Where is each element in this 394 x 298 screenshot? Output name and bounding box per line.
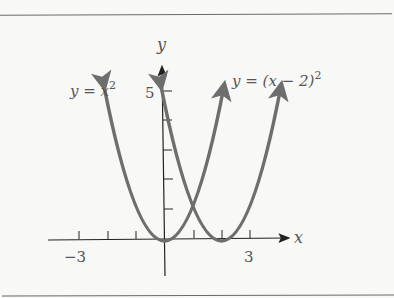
- tick-label-3: 3: [244, 248, 254, 266]
- x-axis-label: x: [294, 228, 303, 247]
- x-axis: [48, 230, 288, 240]
- curve-label-x-minus-2-squared: y = (x − 2)2: [231, 69, 321, 90]
- svg-text:y = x2: y = x2: [69, 79, 116, 100]
- y-axis-label: y: [156, 35, 167, 54]
- svg-text:y = (x − 2)2: y = (x − 2)2: [231, 69, 321, 90]
- curve-label-x-squared: y = x2: [69, 79, 116, 100]
- parabola-chart: y x −3 3 5 y = x2 y = (x − 2)2: [0, 0, 394, 298]
- tick-label-neg3: −3: [64, 248, 86, 266]
- tick-label-5: 5: [145, 84, 155, 102]
